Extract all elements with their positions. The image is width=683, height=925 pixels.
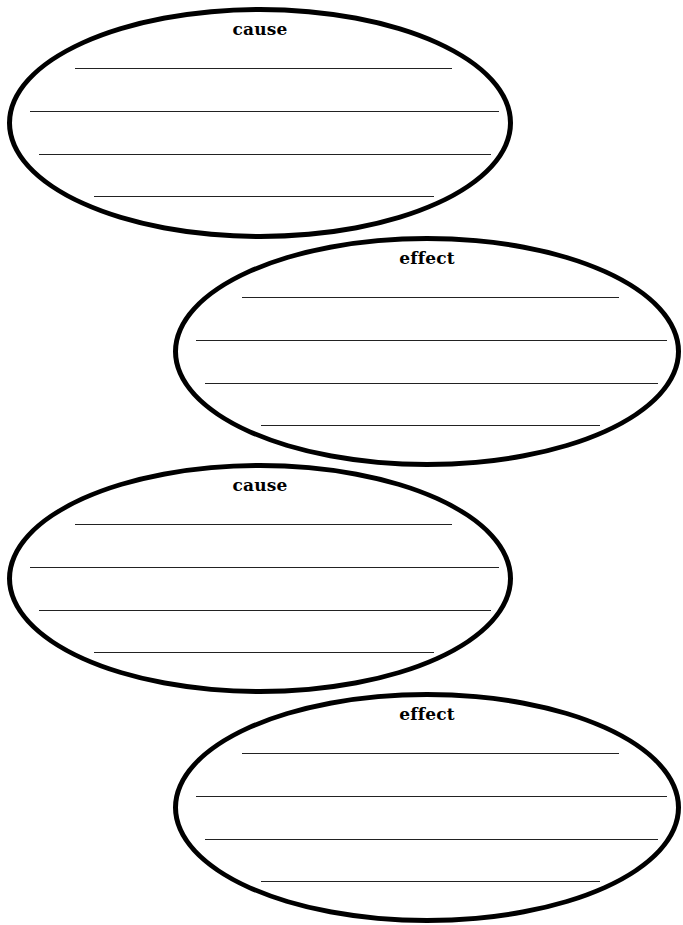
effect-oval-1: effect xyxy=(173,236,681,467)
writing-line[interactable] xyxy=(261,425,600,426)
writing-line[interactable] xyxy=(94,196,434,197)
effect-oval-2: effect xyxy=(173,692,681,923)
writing-line[interactable] xyxy=(205,383,658,384)
writing-line[interactable] xyxy=(261,881,600,882)
writing-line[interactable] xyxy=(205,839,658,840)
cause-label: cause xyxy=(12,475,508,495)
writing-line[interactable] xyxy=(196,340,667,341)
writing-line[interactable] xyxy=(75,524,452,525)
cause-oval-2: cause xyxy=(7,463,513,694)
writing-line[interactable] xyxy=(196,796,667,797)
cause-label: cause xyxy=(12,19,508,39)
writing-line[interactable] xyxy=(39,154,491,155)
writing-line[interactable] xyxy=(30,111,499,112)
writing-line[interactable] xyxy=(39,610,491,611)
writing-line[interactable] xyxy=(75,68,452,69)
cause-effect-worksheet: cause effect cause effect xyxy=(0,0,683,925)
writing-line[interactable] xyxy=(242,297,619,298)
effect-label: effect xyxy=(178,248,676,268)
effect-label: effect xyxy=(178,704,676,724)
cause-oval-1: cause xyxy=(7,7,513,239)
writing-line[interactable] xyxy=(94,652,434,653)
writing-line[interactable] xyxy=(242,753,619,754)
writing-line[interactable] xyxy=(30,567,499,568)
